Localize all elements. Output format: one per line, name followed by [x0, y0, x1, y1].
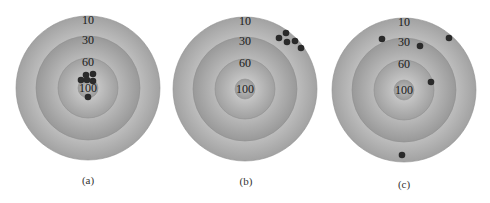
ring-label-10: 10	[82, 13, 94, 27]
ring-label-60: 60	[239, 56, 251, 70]
ring-label-100: 100	[236, 82, 254, 96]
hit-marker	[85, 94, 92, 101]
targets-canvas: 103060100103060100103060100	[0, 0, 490, 203]
hit-marker	[90, 71, 97, 78]
caption-c: (c)	[398, 178, 410, 190]
ring-label-60: 60	[82, 55, 94, 69]
caption-a: (a)	[82, 174, 94, 186]
ring-label-30: 30	[398, 35, 410, 49]
hit-marker	[84, 77, 91, 84]
target-c: 103060100	[332, 15, 476, 162]
ring-label-10: 10	[239, 14, 251, 28]
ring-label-60: 60	[398, 57, 410, 71]
ring-label-100: 100	[395, 83, 413, 97]
hit-marker	[283, 30, 290, 37]
hit-marker	[417, 43, 424, 50]
target-a: 103060100	[16, 13, 160, 160]
hit-marker	[298, 45, 305, 52]
ring-label-30: 30	[82, 33, 94, 47]
hit-marker	[276, 35, 283, 42]
hit-marker	[399, 152, 406, 159]
hit-marker	[90, 78, 97, 85]
hit-marker	[379, 36, 386, 43]
hit-marker	[292, 38, 299, 45]
target-b: 103060100	[173, 14, 317, 161]
caption-b: (b)	[240, 175, 253, 187]
hit-marker	[428, 79, 435, 86]
hit-marker	[446, 35, 453, 42]
ring-label-10: 10	[398, 15, 410, 29]
hit-marker	[284, 39, 291, 46]
ring-label-30: 30	[239, 34, 251, 48]
accuracy-precision-figure: 103060100103060100103060100 (a) (b) (c)	[0, 0, 490, 203]
hit-marker	[78, 77, 85, 84]
